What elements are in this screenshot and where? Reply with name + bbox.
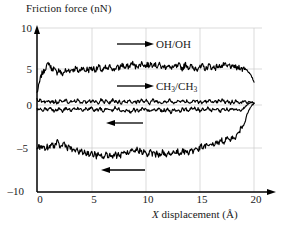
plot-svg xyxy=(0,0,294,231)
trace-ch3-ch3-forward xyxy=(37,99,254,105)
x-axis-arrowhead xyxy=(267,189,276,195)
data-traces xyxy=(37,61,254,159)
ch3-ch3-forward-arrowhead xyxy=(145,83,154,89)
oh-oh-forward-arrowhead xyxy=(145,41,154,47)
y-axis-arrowhead xyxy=(34,25,40,34)
trace-ch3-ch3-reverse xyxy=(37,102,254,113)
friction-force-chart: Friction force (nN) X displacement (Å) 1… xyxy=(0,0,294,231)
ch3-ch3-reverse-arrowhead xyxy=(106,120,115,126)
oh-oh-reverse-arrowhead xyxy=(101,167,110,173)
